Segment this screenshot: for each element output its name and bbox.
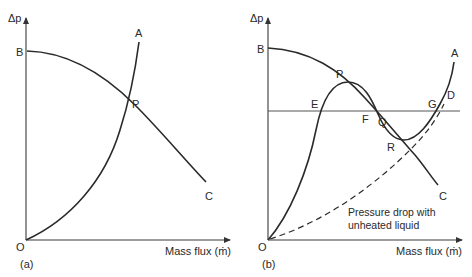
demand-curve-oa-a [26,42,139,240]
x-axis-label-a: Mass flux (ṁ) [165,245,231,257]
supply-curve-bc-a [27,51,206,182]
point-r-label-b: R [387,141,395,153]
supply-curve-bc-b [268,48,438,185]
point-c-label-b: C [439,190,447,202]
point-p-label-a: P [132,98,139,110]
point-c-label-a: C [205,190,213,202]
point-f-label-b: F [362,113,369,125]
point-q-label-b: Q [378,116,387,128]
y-axis-label-a: Δp [8,12,21,24]
point-a-label-a: A [135,27,143,39]
panel-a: Δp B A P C O Mass flux (ṁ) (a) [8,12,231,270]
y-axis-label-b: Δp [250,12,263,24]
point-p-label-b: P [336,68,343,80]
point-e-label-b: E [311,98,318,110]
caption-b: (b) [262,258,275,270]
point-d-label-b: D [447,89,455,101]
x-axis-label-b: Mass flux (ṁ) [396,245,462,257]
diagram-canvas: Δp B A P C O Mass flux (ṁ) (a) Δp B A P … [0,0,472,277]
panel-b: Δp B A P E F Q R G D C O Pressure drop w… [250,12,462,270]
point-g-label-b: G [428,98,437,110]
origin-label-b: O [258,241,267,253]
caption-a: (a) [20,258,33,270]
point-b-label-a: B [16,46,23,58]
annotation-line1: Pressure drop with [348,206,436,218]
annotation-line2: unheated liquid [348,219,419,231]
origin-label-a: O [16,241,25,253]
point-b-label-b: B [257,43,264,55]
point-a-label-b: A [451,47,459,59]
